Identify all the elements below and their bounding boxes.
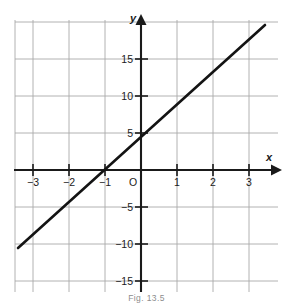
tick-label-x-3: 3 bbox=[246, 176, 252, 188]
tick-label-y--10: −10 bbox=[115, 238, 133, 250]
tick-label-x--2: −2 bbox=[63, 176, 75, 188]
origin-label: O bbox=[129, 176, 137, 188]
tick-label-y-10: 10 bbox=[121, 90, 133, 102]
tick-label-y--15: −15 bbox=[115, 275, 133, 287]
x-axis bbox=[14, 165, 282, 176]
tick-label-x-2: 2 bbox=[210, 176, 216, 188]
y-axis-arrow-icon bbox=[136, 14, 147, 25]
tick-label-x--3: −3 bbox=[27, 176, 39, 188]
y-axis bbox=[136, 14, 147, 292]
figure-caption: Fig. 13.5 bbox=[0, 293, 293, 303]
x-axis-label: x bbox=[265, 151, 273, 163]
grid-lines-horizontal bbox=[15, 22, 278, 281]
y-axis-label: y bbox=[129, 12, 137, 24]
x-axis-tick-labels: −3 −2 −1 1 2 3 bbox=[27, 176, 252, 188]
tick-label-y--5: −5 bbox=[121, 201, 133, 213]
tick-label-x-1: 1 bbox=[174, 176, 180, 188]
tick-label-y-5: 5 bbox=[127, 127, 133, 139]
x-axis-arrow-icon bbox=[271, 165, 282, 176]
tick-label-y-15: 15 bbox=[121, 53, 133, 65]
tick-label-x--1: −1 bbox=[99, 176, 111, 188]
